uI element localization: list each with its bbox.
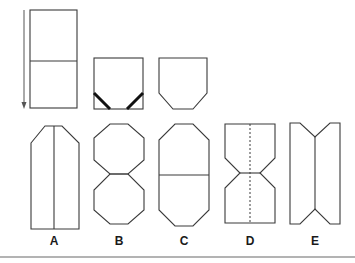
folding-diagram: A B C D E (0, 0, 355, 263)
option-e-shape[interactable] (290, 123, 340, 224)
option-a-label: A (50, 234, 59, 248)
option-c-label: C (180, 234, 189, 248)
option-a-shape[interactable] (31, 126, 79, 229)
option-d-shape[interactable] (225, 124, 275, 223)
option-e-label: E (311, 234, 319, 248)
option-c-shape[interactable] (159, 124, 209, 226)
option-b-shape[interactable] (94, 124, 144, 224)
down-arrow-icon (22, 10, 27, 109)
step-2-folded-square (94, 58, 143, 109)
option-b-label: B (115, 234, 124, 248)
option-d-label: D (246, 234, 255, 248)
step-1-unfolded-rectangle (30, 10, 77, 108)
step-3-chamfered-square (159, 58, 207, 109)
